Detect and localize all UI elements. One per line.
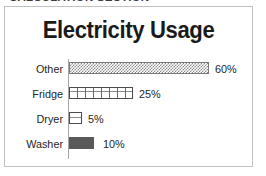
document-section-heading: CALCULATION SECTION — [9, 0, 149, 3]
category-label-washer: Washer — [8, 138, 63, 150]
bar-washer — [69, 137, 94, 149]
chart-container: Electricity Usage Other 60% Fridge 25% D… — [4, 6, 253, 167]
bar-dryer — [69, 112, 82, 124]
value-label-other: 60% — [215, 63, 237, 75]
category-label-dryer: Dryer — [8, 113, 63, 125]
bar-row-fridge: Fridge 25% — [5, 82, 254, 105]
bar-row-other: Other 60% — [5, 57, 254, 80]
category-label-fridge: Fridge — [8, 88, 63, 100]
value-label-fridge: 25% — [139, 88, 161, 100]
chart-title: Electricity Usage — [15, 16, 242, 44]
category-label-other: Other — [8, 63, 63, 75]
value-label-dryer: 5% — [88, 113, 104, 125]
bar-other — [69, 62, 209, 74]
plot-area: Other 60% Fridge 25% Dryer 5% Washer 10% — [5, 57, 254, 162]
bar-row-washer: Washer 10% — [5, 132, 254, 155]
value-label-washer: 10% — [103, 138, 125, 150]
bar-fridge — [69, 87, 133, 99]
bar-row-dryer: Dryer 5% — [5, 107, 254, 130]
